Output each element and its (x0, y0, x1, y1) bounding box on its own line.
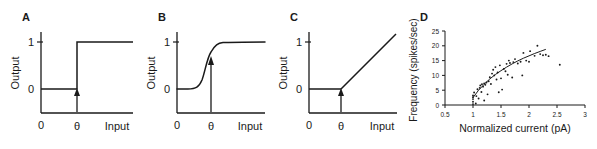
panel-b-sigmoid-curve (177, 42, 265, 89)
panel-d-data-point (481, 83, 483, 85)
panel-d-ytick-label-0: 0 (435, 102, 439, 109)
panel-d-xtick-label-1: 1 (471, 111, 475, 118)
panel-d-ytick-label-15: 15 (432, 57, 440, 64)
panel-d-ytick-label-5: 5 (435, 87, 439, 94)
panel-d-xtick-label-2.5: 2.5 (552, 111, 561, 118)
panel-d-data-point (472, 98, 474, 100)
panel-a-step-curve (41, 42, 133, 89)
panel-d: D (400, 0, 597, 149)
panel-d-xtick-label-0.5: 0.5 (440, 111, 449, 118)
panel-d-chart: 0 5 10 15 20 25 0.5 1 1.5 2 2.5 3 Normal… (400, 0, 597, 149)
panel-b-y-axis-label: Output (145, 56, 157, 89)
panel-c-chart: 0 1 0 θ Input Output (268, 0, 400, 149)
panel-b-xtick-label-0: 0 (174, 119, 180, 131)
panel-b-threshold-label: θ (208, 120, 214, 132)
panel-d-data-point (509, 62, 511, 64)
panel-d-data-point (473, 92, 475, 94)
panel-d-data-point (496, 79, 498, 81)
panel-d-ytick-label-20: 20 (432, 42, 440, 49)
panel-c-threshold-label: θ (338, 120, 344, 132)
panel-a-xtick-label-0: 0 (38, 119, 44, 131)
panel-d-data-point (529, 50, 531, 52)
panel-d-data-point (492, 69, 494, 71)
panel-a-y-axis-label: Output (9, 56, 21, 89)
panel-d-data-point (472, 101, 474, 103)
panel-a: A 0 1 0 θ Input Output (0, 0, 136, 149)
panel-d-data-point (500, 77, 502, 79)
panel-d-data-point (483, 100, 485, 102)
panel-d-data-point (480, 91, 482, 93)
panel-d-data-point (472, 103, 474, 105)
panel-d-data-point (511, 77, 513, 79)
panel-d-data-point (499, 64, 501, 66)
panel-c-xtick-label-0: 0 (306, 119, 312, 131)
panel-d-x-axis-label: Normalized current (pA) (459, 122, 570, 134)
panel-d-data-point (508, 60, 510, 62)
panel-d-data-point (514, 58, 516, 60)
panel-b-ytick-label-1: 1 (164, 36, 170, 48)
panel-b: B 0 1 0 θ Input Output (136, 0, 268, 149)
panel-d-data-point (478, 98, 480, 100)
panel-a-ytick-label-0: 0 (28, 83, 34, 95)
panel-d-data-point (475, 103, 477, 105)
panel-d-data-point (548, 55, 550, 57)
panel-d-data-point (491, 73, 493, 75)
panel-d-y-axis-label: Frequency (spikes/sec) (408, 18, 419, 121)
panel-d-data-point (521, 74, 523, 76)
panel-d-scatter-points (472, 45, 561, 105)
panel-d-ytick-label-10: 10 (432, 72, 440, 79)
panel-d-xtick-label-1.5: 1.5 (496, 111, 505, 118)
panel-d-data-point (487, 93, 489, 95)
panel-b-chart: 0 1 0 θ Input Output (136, 0, 268, 149)
panel-c-ytick-label-0: 0 (296, 83, 302, 95)
panel-d-data-point (494, 66, 496, 68)
panel-d-data-point (542, 54, 544, 56)
panel-c: C 0 1 0 θ Input Output (268, 0, 400, 149)
figure-panel-group: A 0 1 0 θ Input Output B (0, 0, 597, 149)
panel-a-ytick-label-1: 1 (28, 36, 34, 48)
panel-d-xtick-label-3: 3 (583, 111, 587, 118)
panel-a-x-axis-label: Input (105, 120, 129, 132)
panel-d-data-point (525, 60, 527, 62)
panel-d-data-point (520, 61, 522, 63)
panel-a-chart: 0 1 0 θ Input Output (0, 0, 136, 149)
panel-a-threshold-label: θ (74, 120, 80, 132)
panel-d-data-point (498, 91, 500, 93)
panel-b-x-axis-label: Input (238, 120, 262, 132)
panel-d-data-point (545, 54, 547, 56)
panel-d-data-point (475, 95, 477, 97)
panel-d-data-point (534, 55, 536, 57)
panel-d-data-point (490, 83, 492, 85)
panel-d-data-point (506, 63, 508, 65)
panel-c-relu-curve (309, 34, 396, 89)
panel-c-x-axis-label: Input (370, 120, 394, 132)
panel-d-data-point (522, 52, 524, 54)
panel-d-data-point (505, 70, 507, 72)
panel-d-data-point (507, 74, 509, 76)
panel-d-data-point (559, 64, 561, 66)
panel-c-ytick-label-1: 1 (296, 36, 302, 48)
panel-d-data-point (528, 61, 530, 63)
panel-b-ytick-label-0: 0 (164, 83, 170, 95)
panel-c-y-axis-label: Output (277, 56, 289, 89)
panel-d-xtick-label-2: 2 (527, 111, 531, 118)
panel-d-ytick-label-25: 25 (432, 28, 440, 35)
panel-d-data-point (536, 45, 538, 47)
panel-d-data-point (539, 53, 541, 55)
panel-d-data-point (479, 85, 481, 87)
panel-d-data-point (517, 63, 519, 65)
panel-d-data-point (501, 89, 503, 91)
